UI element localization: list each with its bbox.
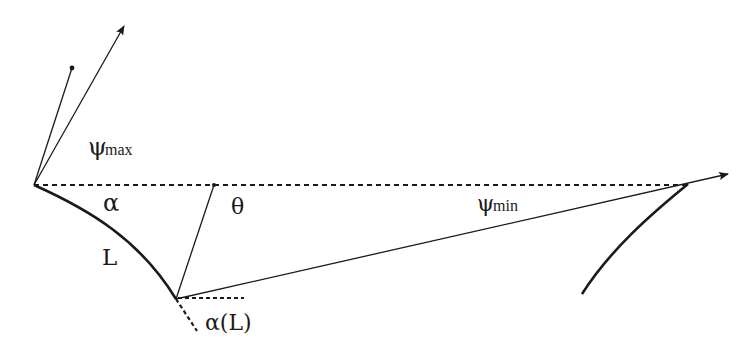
L-label: L (102, 244, 117, 270)
ray-endpoint-dot (70, 66, 75, 71)
alpha-label: α (103, 189, 119, 217)
tangent-dashed (176, 299, 197, 331)
theta-segment (176, 185, 214, 299)
psi-max-subscript: max (105, 141, 133, 158)
short-ray (34, 68, 72, 185)
psi-min-symbol: ψ (477, 191, 494, 216)
theta-label: θ (231, 194, 244, 219)
psi-max-symbol: ψ (88, 133, 107, 161)
theta-point-dot (212, 183, 216, 187)
alpha-L-label: α(L) (205, 310, 252, 335)
right-curve (582, 184, 688, 294)
psi-min-subscript: min (493, 197, 518, 214)
psi-max-ray-arrow (34, 26, 124, 185)
psi-min-ray-arrow (176, 174, 728, 299)
geometry-diagram: ψ max α θ L ψ min α(L) (0, 0, 751, 354)
